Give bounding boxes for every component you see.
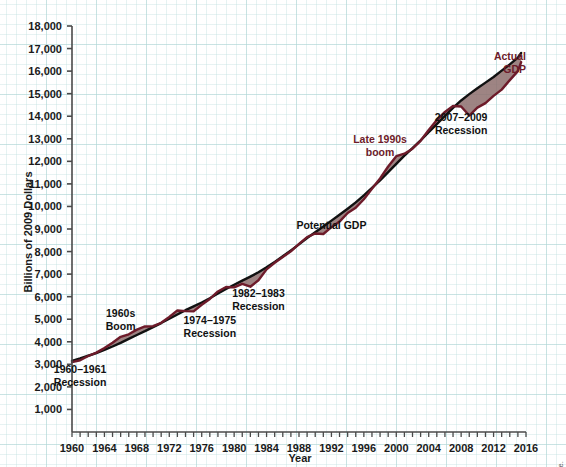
- annotation-label: Actual: [494, 50, 526, 62]
- x-tick-label: 1968: [125, 442, 149, 454]
- annotation-label: 1960–1961: [54, 363, 107, 375]
- x-tick-label: 1992: [319, 442, 343, 454]
- y-tick-label: 5,000: [34, 313, 62, 325]
- y-tick-label: 4,000: [34, 336, 62, 348]
- actual-gdp-line: [72, 62, 521, 362]
- y-axis-title: Billions of 2009 Dollars: [22, 171, 34, 292]
- x-tick-label: 2000: [384, 442, 408, 454]
- annotation-label: Recession: [184, 327, 237, 339]
- y-tick-label: 13,000: [28, 133, 62, 145]
- annotation-label: Recession: [435, 124, 488, 136]
- y-tick-label: 6,000: [34, 291, 62, 303]
- y-tick-label: 15,000: [28, 88, 62, 100]
- annotation-label: Potential GDP: [296, 219, 366, 231]
- x-axis-title: Year: [288, 452, 312, 464]
- x-axis-ticks: 1960196419681972197619801984198819921996…: [60, 432, 538, 454]
- annotation-label: 1960s: [106, 307, 135, 319]
- y-axis-ticks: 1,0002,0003,0004,0005,0006,0007,0008,000…: [28, 20, 72, 415]
- gdp-chart: 1,0002,0003,0004,0005,0006,0007,0008,000…: [0, 0, 566, 467]
- x-tick-label: 1980: [222, 442, 246, 454]
- x-tick-label: 1976: [189, 442, 213, 454]
- x-tick-label: 2008: [449, 442, 473, 454]
- x-tick-label: 1964: [92, 442, 117, 454]
- annotation-label: Boom: [106, 320, 136, 332]
- x-tick-label: 1960: [60, 442, 84, 454]
- y-tick-label: 8,000: [34, 246, 62, 258]
- annotation-label: 1982–1983: [232, 287, 285, 299]
- annotation-label: Recession: [54, 376, 107, 388]
- output-gap-area: [72, 53, 521, 362]
- annotation-label: GDP: [503, 63, 526, 75]
- annotation-label: Recession: [232, 300, 285, 312]
- y-tick-label: 12,000: [28, 155, 62, 167]
- annotation-label: 1974–1975: [184, 314, 237, 326]
- y-tick-label: 14,000: [28, 110, 62, 122]
- actual-gdp-path: [72, 62, 521, 362]
- annotation-label: boom: [366, 146, 395, 158]
- y-tick-label: 7,000: [34, 268, 62, 280]
- annotation-label: Late 1990s: [353, 133, 407, 145]
- y-tick-label: 17,000: [28, 43, 62, 55]
- annotation-label: 2007–2009: [435, 111, 488, 123]
- potential-gdp-line: [72, 53, 521, 361]
- y-tick-label: 9,000: [34, 223, 62, 235]
- x-tick-label: 2004: [416, 442, 441, 454]
- output-gap-fill: [72, 53, 521, 362]
- x-tick-label: 1996: [352, 442, 376, 454]
- y-tick-label: 18,000: [28, 20, 62, 32]
- x-tick-label: 2016: [514, 442, 538, 454]
- x-tick-label: 2012: [481, 442, 505, 454]
- y-tick-label: 16,000: [28, 65, 62, 77]
- x-tick-label: 1972: [157, 442, 181, 454]
- source-note: SOURCE: U.S. Department of Commerce and …: [556, 461, 565, 467]
- y-tick-label: 1,000: [34, 403, 62, 415]
- x-tick-label: 1984: [254, 442, 279, 454]
- potential-gdp-path: [72, 53, 521, 361]
